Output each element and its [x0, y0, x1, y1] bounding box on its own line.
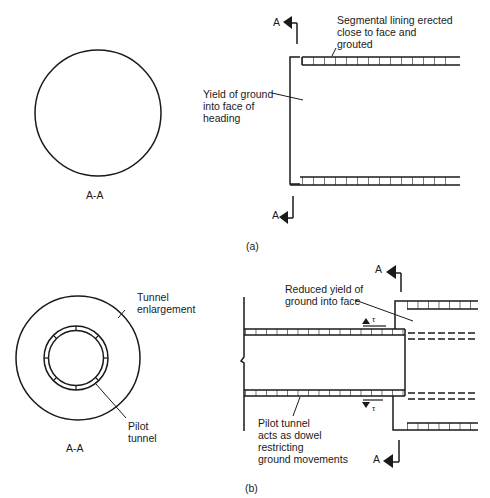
- break-line: [241, 297, 244, 431]
- enlargement-annotation: Tunnel enlargement: [137, 291, 195, 315]
- leader-line: [332, 48, 336, 56]
- segmental-lining-top-a: [302, 57, 460, 65]
- section-marker-top-a: A: [273, 16, 280, 28]
- pilot-lining-top: [244, 329, 405, 335]
- pilot-annotation: Pilot tunnel: [128, 420, 157, 444]
- caption-b: (b): [245, 482, 258, 494]
- pilot-tunnel-cross-section: [44, 326, 108, 390]
- shear-arrow-down-icon: [362, 402, 370, 408]
- heading-face-a: [290, 57, 300, 184]
- arrow-head-icon: [383, 454, 393, 468]
- tunnel-diagram: [0, 0, 490, 498]
- pilot-lining-bottom: [244, 390, 405, 396]
- caption-a: (a): [246, 240, 259, 252]
- reduced-yield-annotation: Reduced yield of ground into face: [285, 283, 363, 307]
- leader-line: [293, 397, 300, 416]
- section-label-b: A-A: [66, 442, 84, 454]
- section-marker-top-b: A: [375, 263, 382, 275]
- yield-annotation: Yield of ground into face of heading: [203, 88, 273, 124]
- tunnel-cross-section-a: [35, 50, 161, 176]
- shear-label-bottom: τ: [372, 403, 375, 415]
- arrow-head-icon: [283, 16, 292, 29]
- enlargement-lining-bottom: [407, 423, 478, 430]
- shear-label-top: τ: [372, 314, 375, 326]
- section-marker-bottom-b: A: [373, 453, 380, 465]
- dowel-annotation: Pilot tunnel acts as dowel restricting g…: [258, 417, 348, 465]
- leader-line: [355, 300, 413, 321]
- leader-line: [272, 93, 303, 100]
- future-lining-dashed: [408, 333, 478, 399]
- enlargement-lining-top: [407, 301, 478, 309]
- leader-line: [96, 384, 126, 418]
- section-marker-bottom-a: A: [272, 209, 279, 221]
- section-label-a: A-A: [86, 189, 104, 201]
- arrow-head-icon: [279, 211, 288, 224]
- shear-arrow-up-icon: [362, 318, 370, 324]
- arrow-head-icon: [386, 265, 396, 279]
- lining-annotation: Segmental lining erected close to face a…: [337, 14, 453, 50]
- segmental-lining-bottom-a: [290, 177, 460, 185]
